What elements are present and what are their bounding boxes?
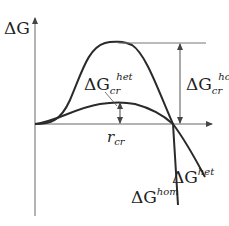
label-dG-cr-hom: ΔGcrhom [186, 71, 229, 96]
nucleation-diagram: ΔG ΔGcrhom ΔGcrhet rcr ΔGhet ΔGhom [0, 0, 229, 226]
label-r-cr: rcr [107, 128, 126, 147]
label-dG-het: ΔGhet [172, 166, 215, 187]
curve-homogeneous [35, 42, 178, 205]
label-dG-hom: ΔGhom [131, 186, 179, 207]
y-axis-label: ΔG [4, 18, 30, 38]
label-dG-cr-het: ΔGcrhet [84, 71, 134, 96]
